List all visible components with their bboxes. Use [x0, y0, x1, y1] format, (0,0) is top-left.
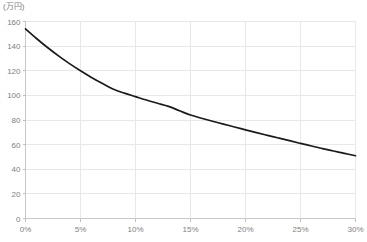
- x-tick-label: 15%: [182, 225, 198, 234]
- x-tick-label: 10%: [127, 225, 143, 234]
- y-tick-label: 120: [7, 67, 21, 76]
- x-axis-tick-labels: 0%5%10%15%20%25%30%: [20, 225, 364, 234]
- line-chart: 020406080100120140160 0%5%10%15%20%25%30…: [0, 0, 367, 242]
- y-tick-label: 0: [16, 215, 21, 224]
- chart-container: 020406080100120140160 0%5%10%15%20%25%30…: [0, 0, 367, 242]
- y-tick-label: 160: [7, 18, 21, 27]
- tick-marks: [23, 22, 356, 222]
- y-tick-label: 20: [12, 190, 21, 199]
- y-tick-label: 40: [12, 165, 21, 174]
- x-tick-label: 5%: [75, 225, 87, 234]
- x-tick-label: 0%: [20, 225, 32, 234]
- y-axis-unit-label: (万円): [3, 2, 25, 11]
- y-tick-label: 140: [7, 42, 21, 51]
- y-axis-tick-labels: 020406080100120140160: [7, 18, 21, 224]
- x-tick-label: 30%: [347, 225, 363, 234]
- x-tick-label: 25%: [292, 225, 308, 234]
- y-tick-label: 100: [7, 91, 21, 100]
- y-tick-label: 60: [12, 141, 21, 150]
- x-tick-label: 20%: [237, 225, 253, 234]
- y-tick-label: 80: [12, 116, 21, 125]
